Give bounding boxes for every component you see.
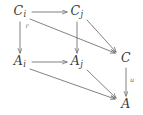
node-base-c: C [121, 50, 131, 65]
arrow-ci-to-c [30, 19, 115, 53]
arrow-ai-to-a [30, 69, 115, 99]
node-base-a: A [121, 96, 130, 111]
node-label-aj: Aj [71, 55, 83, 69]
edge-label-ci-to-ai: r [25, 23, 28, 30]
node-sub-ci: i [24, 9, 27, 19]
node-label-ai: Ai [14, 55, 26, 69]
node-base-cj: C [71, 3, 81, 18]
node-label-c: C [121, 52, 131, 66]
node-label-cj: Cj [71, 5, 84, 19]
node-label-ci: Ci [14, 5, 27, 19]
node-base-ci: C [14, 3, 24, 18]
node-sub-ai: i [23, 59, 26, 69]
node-sub-cj: j [81, 9, 84, 19]
node-base-ai: A [14, 53, 23, 68]
commutative-diagram: Ci Cj C Ai Aj A r u [0, 0, 143, 115]
edge-label-c-to-a: u [130, 77, 134, 84]
node-label-a: A [121, 98, 131, 112]
node-base-aj: A [71, 53, 80, 68]
node-sub-aj: j [80, 59, 83, 69]
